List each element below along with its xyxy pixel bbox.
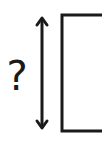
bracket	[62, 15, 102, 131]
double-headed-arrow	[37, 18, 47, 128]
diagram-canvas	[0, 0, 106, 141]
